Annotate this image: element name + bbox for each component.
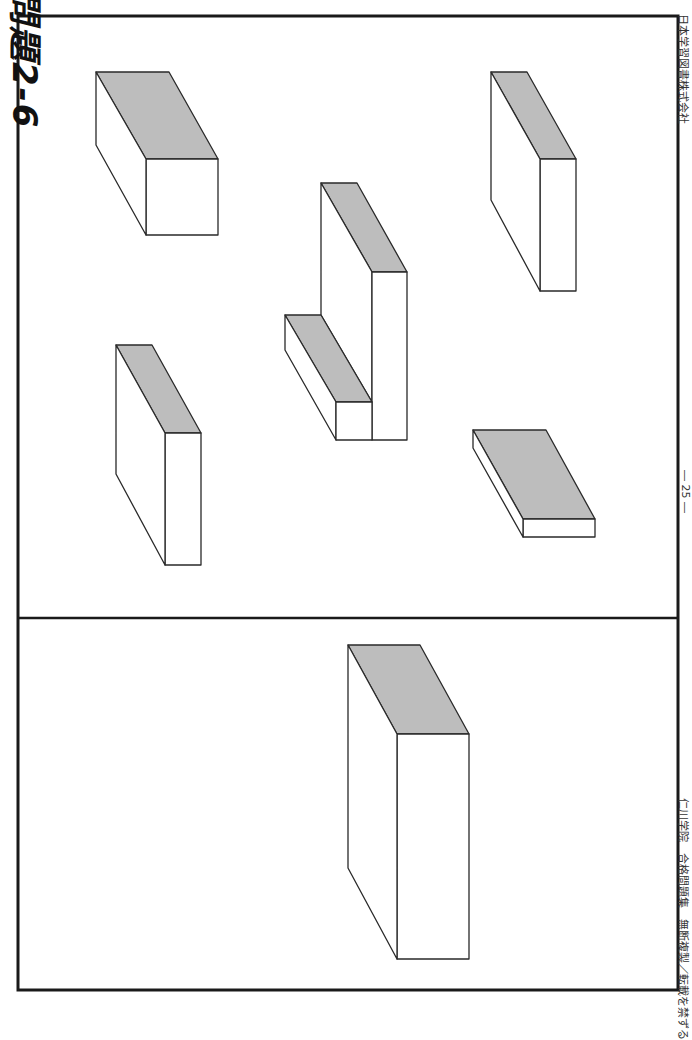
- copyright-notice: 仁川学院 合格問題集 無断複製／転載を禁ずる: [676, 798, 692, 1040]
- page-number: ― 25 ―: [679, 470, 692, 513]
- problem-title: 問題2-6: [12, 0, 52, 130]
- front-face: [165, 433, 201, 565]
- front-face: [397, 734, 469, 959]
- front-face: [540, 159, 576, 291]
- tall-front-face: [372, 272, 407, 440]
- publisher-name: 日本学習図書株式会社: [676, 14, 692, 124]
- front-face: [523, 519, 595, 537]
- front-face: [146, 159, 218, 235]
- step-front-face: [336, 402, 372, 440]
